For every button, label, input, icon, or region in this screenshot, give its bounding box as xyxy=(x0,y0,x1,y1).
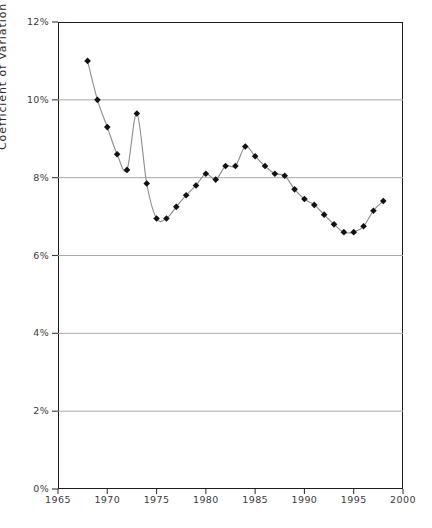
chart-figure: 0%2%4%6%8%10%12% 19651970197519801985199… xyxy=(0,0,432,528)
x-tick-label: 1970 xyxy=(85,494,129,505)
tick-marks xyxy=(52,22,403,494)
x-tick-label: 1980 xyxy=(184,494,228,505)
y-tick-label: 2% xyxy=(9,405,49,416)
gridlines xyxy=(58,100,403,411)
y-tick-label: 10% xyxy=(9,94,49,105)
y-axis-title: Coefficient of Variation xyxy=(0,0,9,150)
y-tick-label: 12% xyxy=(9,16,49,27)
x-tick-label: 1990 xyxy=(282,494,326,505)
y-tick-label: 8% xyxy=(9,172,49,183)
series-line-coefficient-of-variation xyxy=(88,61,384,233)
series-markers xyxy=(84,58,386,236)
x-tick-label: 1975 xyxy=(135,494,179,505)
data-point-marker xyxy=(143,180,150,187)
data-point-marker xyxy=(124,167,131,174)
y-tick-label: 0% xyxy=(9,483,49,494)
x-tick-label: 1985 xyxy=(233,494,277,505)
data-point-marker xyxy=(232,163,239,170)
data-point-marker xyxy=(341,229,348,236)
data-point-marker xyxy=(350,229,357,236)
y-tick-label: 6% xyxy=(9,250,49,261)
chart-canvas xyxy=(0,0,432,528)
y-tick-label: 4% xyxy=(9,327,49,338)
x-tick-label: 1995 xyxy=(332,494,376,505)
data-point-marker xyxy=(104,124,111,131)
x-tick-label: 1965 xyxy=(36,494,80,505)
x-tick-label: 2000 xyxy=(381,494,425,505)
data-point-marker xyxy=(94,97,101,104)
data-point-marker xyxy=(114,151,121,158)
data-point-marker xyxy=(84,58,91,65)
data-point-marker xyxy=(134,110,141,117)
data-point-marker xyxy=(272,170,279,177)
